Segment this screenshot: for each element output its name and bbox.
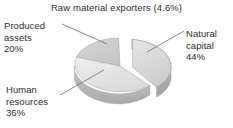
slice-label-natural-capital-value: 44% <box>186 51 217 63</box>
slice-label-natural-capital-line2: capital <box>186 40 217 52</box>
pie-chart-figure: Raw material exporters (4.6%) <box>0 0 233 128</box>
slice-label-natural-capital-line1: Natural <box>186 28 217 40</box>
slice-label-human-resources: Human resources 36% <box>6 84 48 119</box>
slice-label-human-resources-line1: Human <box>6 84 48 96</box>
slice-label-produced-assets-value: 20% <box>4 43 45 55</box>
leader-line-produced-assets <box>62 24 107 44</box>
slice-label-produced-assets: Produced assets 20% <box>4 20 45 55</box>
leader-line-natural-capital <box>147 31 184 52</box>
slice-label-produced-assets-line1: Produced <box>4 20 45 32</box>
slice-label-natural-capital: Natural capital 44% <box>186 28 217 63</box>
slice-label-human-resources-value: 36% <box>6 107 48 119</box>
slice-label-produced-assets-line2: assets <box>4 32 45 44</box>
slice-label-human-resources-line2: resources <box>6 96 48 108</box>
